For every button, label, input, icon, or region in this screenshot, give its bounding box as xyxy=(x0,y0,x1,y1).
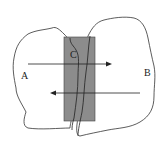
overlap-region-c xyxy=(64,37,95,121)
label-b: B xyxy=(144,68,151,78)
label-a: A xyxy=(21,71,28,81)
arrowhead-right-icon xyxy=(106,62,112,67)
label-c: C xyxy=(70,50,77,60)
arrowhead-left-icon xyxy=(50,91,56,96)
diagram-canvas: A B C xyxy=(0,0,168,148)
